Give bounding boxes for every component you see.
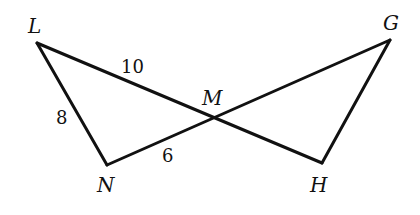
side-label-NM: 6 bbox=[162, 145, 173, 166]
vertex-label-N: N bbox=[96, 173, 116, 197]
triangle-diagram: L M G N H 10 8 6 bbox=[0, 0, 420, 215]
side-label-LN: 8 bbox=[56, 107, 67, 128]
vertex-label-M: M bbox=[201, 86, 223, 110]
segment-GH bbox=[322, 40, 390, 163]
segment-NG bbox=[107, 40, 390, 165]
segment-LN bbox=[37, 43, 107, 165]
side-label-LM: 10 bbox=[121, 56, 144, 77]
vertex-label-L: L bbox=[27, 14, 41, 38]
vertex-label-H: H bbox=[309, 173, 328, 197]
vertex-label-G: G bbox=[383, 11, 399, 35]
segment-LH bbox=[37, 43, 322, 163]
